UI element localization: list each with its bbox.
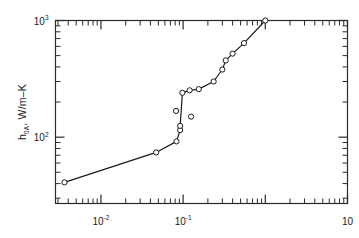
x-axis-label: 10-2: [92, 214, 109, 227]
data-point: [211, 79, 216, 84]
data-point: [188, 114, 193, 119]
data-point: [174, 139, 179, 144]
data-point: [178, 123, 183, 128]
data-point: [154, 150, 159, 155]
data-point: [241, 41, 246, 46]
data-point: [180, 90, 185, 95]
data-point: [173, 108, 178, 113]
y-axis-label: 102: [34, 131, 49, 144]
data-point: [187, 88, 192, 93]
y-axis-title: h0A, W/m–K: [16, 84, 30, 140]
series-line-0: [64, 21, 265, 183]
plot-frame: [56, 21, 348, 204]
log-log-plot: 10-210-110103102h0A, W/m–K: [0, 0, 359, 238]
data-point: [62, 180, 67, 185]
data-point: [230, 51, 235, 56]
x-axis-label: 10-1: [175, 214, 192, 227]
data-point: [223, 58, 228, 63]
data-point: [196, 87, 201, 92]
data-point: [220, 67, 225, 72]
chart-figure: 10-210-110103102h0A, W/m–K: [0, 0, 359, 238]
x-axis-label: 10: [342, 216, 354, 227]
y-axis-label: 103: [34, 14, 49, 27]
data-point: [263, 18, 268, 23]
